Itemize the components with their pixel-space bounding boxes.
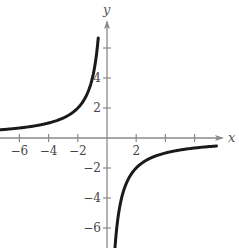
axes [0, 20, 224, 248]
y-tick-label: −4 [83, 191, 101, 205]
x-tick-label: −6 [11, 144, 29, 158]
x-tick-label: 2 [132, 144, 140, 158]
y-axis-label: y [102, 2, 111, 17]
curve-right-branch [115, 146, 216, 247]
x-tick-label: −4 [40, 144, 58, 158]
hyperbola-chart: −6−4−22−6−4−224 x y [0, 0, 239, 248]
x-tick-label: −2 [69, 144, 87, 158]
y-tick-label: −2 [83, 161, 101, 175]
curves [0, 38, 216, 247]
curve-left-branch [0, 38, 98, 130]
y-tick-label: −6 [83, 221, 101, 235]
x-axis-label: x [228, 130, 236, 145]
y-tick-label: 2 [93, 101, 101, 115]
